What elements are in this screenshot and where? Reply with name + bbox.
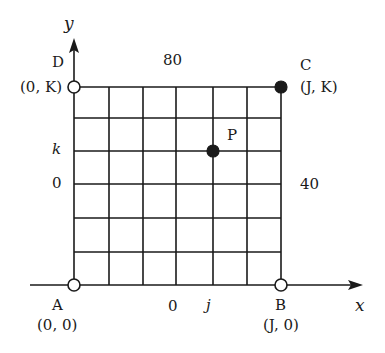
point-d-marker	[68, 81, 80, 93]
bottom-edge-label: 0	[168, 299, 178, 314]
y-axis-label: y	[64, 15, 74, 32]
point-a-marker	[68, 279, 80, 291]
point-c-marker	[275, 81, 287, 93]
point-b-marker	[275, 279, 287, 291]
point-d-coords: (0, K)	[20, 80, 62, 95]
point-c-name: C	[300, 58, 311, 73]
y-axis	[69, 38, 79, 285]
left-edge-label: 0	[52, 176, 62, 191]
right-edge-label: 40	[300, 177, 319, 192]
x-axis-label: x	[355, 297, 365, 314]
point-c-coords: (J, K)	[300, 80, 338, 95]
point-b-coords: (J, 0)	[263, 318, 299, 333]
point-a-coords: (0, 0)	[37, 318, 77, 333]
point-d-name: D	[52, 55, 64, 70]
j-tick-label: j	[206, 298, 211, 313]
grid-lines	[74, 87, 281, 285]
point-p-name: P	[227, 128, 237, 143]
point-p-marker	[207, 145, 219, 157]
top-edge-label: 80	[163, 53, 182, 68]
coordinate-grid-diagram: y x D (0, K) C (J, K) P A (0, 0) B (J, 0…	[0, 0, 385, 353]
k-tick-label: k	[52, 142, 61, 157]
point-b-name: B	[275, 298, 286, 313]
point-a-name: A	[52, 298, 63, 313]
